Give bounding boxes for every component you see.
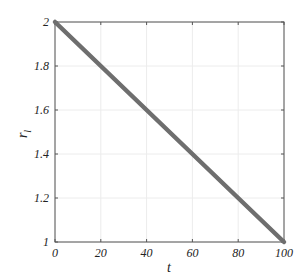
series-line bbox=[55, 22, 284, 242]
x-tick-label: 80 bbox=[232, 246, 244, 260]
x-tick-label: 0 bbox=[52, 246, 58, 260]
x-axis-ticks: 020406080100 bbox=[52, 22, 293, 260]
x-tick-label: 40 bbox=[141, 246, 153, 260]
x-tick-label: 100 bbox=[275, 246, 293, 260]
x-tick-label: 20 bbox=[95, 246, 107, 260]
data-series bbox=[55, 22, 284, 242]
chart-svg: 020406080100 11.21.41.61.82 t rl bbox=[0, 0, 305, 279]
y-tick-label: 1.2 bbox=[34, 191, 49, 205]
y-tick-label: 1.8 bbox=[34, 59, 49, 73]
y-tick-label: 1 bbox=[43, 235, 49, 249]
svg-text:rl: rl bbox=[15, 130, 33, 138]
y-label-subscript: l bbox=[22, 130, 33, 133]
y-tick-label: 1.6 bbox=[34, 103, 49, 117]
y-axis-ticks: 11.21.41.61.82 bbox=[34, 15, 284, 249]
x-axis-label: t bbox=[167, 260, 172, 275]
y-axis-label: rl bbox=[15, 130, 33, 138]
y-tick-label: 2 bbox=[43, 15, 49, 29]
line-chart: 020406080100 11.21.41.61.82 t rl bbox=[0, 0, 305, 279]
x-tick-label: 60 bbox=[186, 246, 198, 260]
y-tick-label: 1.4 bbox=[34, 147, 49, 161]
